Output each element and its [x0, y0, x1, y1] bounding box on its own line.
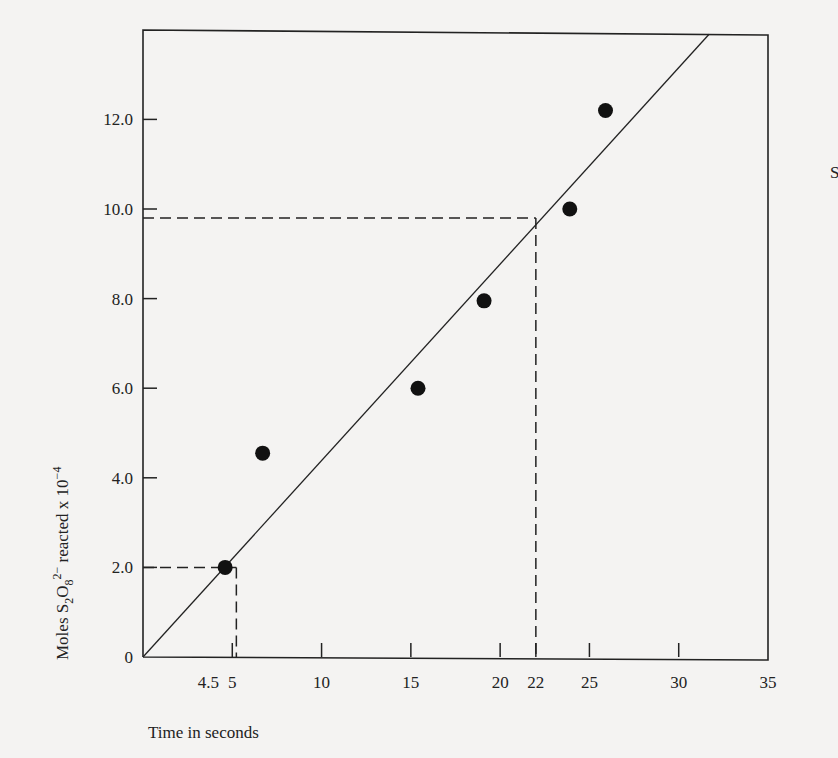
data-points	[218, 103, 613, 575]
data-point	[477, 293, 492, 308]
x-tick-label: 10	[313, 673, 330, 692]
x-tick-label: 15	[402, 673, 419, 692]
y-tick-label: 6.0	[112, 379, 133, 398]
data-point	[411, 381, 426, 396]
dashed-guides	[143, 218, 536, 657]
x-tick-label: 22	[527, 673, 544, 692]
data-point	[562, 202, 577, 217]
x-tick-label: 20	[492, 673, 509, 692]
y-axis-title: Moles S2O82− reacted x 10−4	[50, 467, 76, 660]
chart: 5101520222530354.5 02.04.06.08.010.012.0…	[0, 0, 838, 758]
plot-frame	[143, 30, 768, 660]
x-axis-ticks: 5101520222530354.5	[198, 643, 777, 692]
data-point	[255, 446, 270, 461]
data-point	[598, 103, 613, 118]
data-point	[218, 560, 233, 575]
y-tick-label: 8.0	[112, 290, 133, 309]
x-axis-title: Time in seconds	[148, 723, 259, 742]
x-tick-label: 30	[670, 673, 687, 692]
x-tick-label: 35	[760, 673, 777, 692]
stray-text: S	[830, 163, 838, 182]
y-tick-label: 0	[125, 648, 134, 667]
x-extra-label: 4.5	[198, 673, 219, 692]
axes-box	[143, 30, 768, 660]
y-tick-label: 10.0	[103, 200, 133, 219]
y-tick-label: 2.0	[112, 558, 133, 577]
x-tick-label: 25	[581, 673, 598, 692]
y-axis-ticks: 02.04.06.08.010.012.0	[103, 110, 157, 667]
x-tick-label: 5	[228, 673, 237, 692]
y-tick-label: 12.0	[103, 110, 133, 129]
y-tick-label: 4.0	[112, 469, 133, 488]
